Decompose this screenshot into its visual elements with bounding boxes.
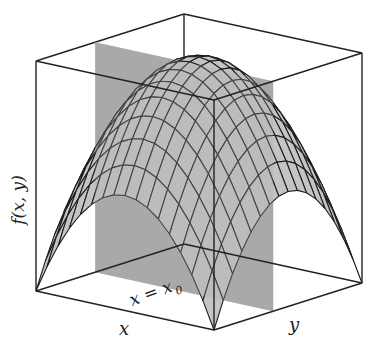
surface-plot: f(x, y) x y x = x 0 (0, 0, 367, 351)
box-edge (184, 14, 362, 53)
z-axis-label: f(x, y) (8, 175, 28, 227)
y-axis-label: y (288, 314, 300, 335)
slice-plane-front-part (95, 42, 273, 311)
slice-plane-overlay (95, 42, 273, 311)
x-axis-label: x (119, 318, 129, 339)
surface-patch (47, 216, 67, 267)
